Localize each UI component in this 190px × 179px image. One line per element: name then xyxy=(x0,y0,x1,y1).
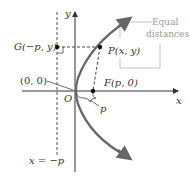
point-P-label: P(x, y) xyxy=(107,45,140,56)
curve-arrow-down-icon xyxy=(118,150,129,158)
segment-PF xyxy=(93,47,100,91)
origin-coord-label: (0, 0) xyxy=(20,75,47,86)
origin-label: O xyxy=(64,93,72,104)
distance-p-label: p xyxy=(100,103,107,114)
point-F xyxy=(91,89,95,93)
parabola-diagram: y x O (0, 0) G(−p, y) P(x, y) F(p, 0) p … xyxy=(0,0,190,179)
x-axis-label: x xyxy=(176,95,182,106)
focus-label: F(p, 0) xyxy=(103,77,138,88)
y-axis-label: y xyxy=(64,8,71,19)
annotation-line2: distances xyxy=(146,29,189,39)
directrix-label: x = −p xyxy=(29,155,65,166)
origin-leader xyxy=(47,81,73,90)
point-G-label: G(−p, y) xyxy=(14,41,57,52)
p-brace xyxy=(76,93,96,102)
annotation-line1: Equal xyxy=(152,17,178,27)
parabola-curve xyxy=(76,20,128,157)
point-P xyxy=(98,45,102,49)
p-leader xyxy=(90,100,99,106)
